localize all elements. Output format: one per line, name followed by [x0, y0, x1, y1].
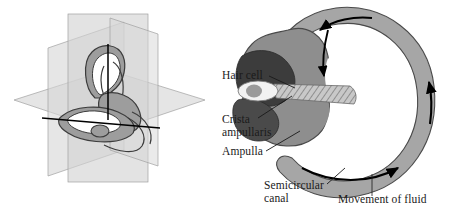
leader-semicircular-canal — [327, 168, 345, 184]
label-semicircular-canal: Semicircular canal — [264, 179, 324, 204]
label-hair-cell-text: Hair cell — [222, 69, 263, 81]
leader-hair-cell — [269, 76, 295, 88]
label-semicircular-line2: canal — [264, 192, 324, 205]
label-movement-text: Movement of fluid — [338, 193, 427, 205]
label-semicircular-line1: Semicircular — [264, 179, 324, 192]
label-leader-lines — [0, 0, 463, 211]
label-crista-line2: ampullaris — [222, 126, 272, 139]
label-ampulla: Ampulla — [222, 145, 263, 158]
label-movement-of-fluid: Movement of fluid — [338, 193, 427, 206]
figure-semicircular-canal: Hair cell Crista ampullaris Ampulla Semi… — [0, 0, 463, 211]
label-crista-line1: Crista — [222, 113, 272, 126]
label-hair-cell: Hair cell — [222, 69, 263, 82]
label-crista-ampullaris: Crista ampullaris — [222, 113, 272, 138]
label-ampulla-text: Ampulla — [222, 145, 263, 157]
